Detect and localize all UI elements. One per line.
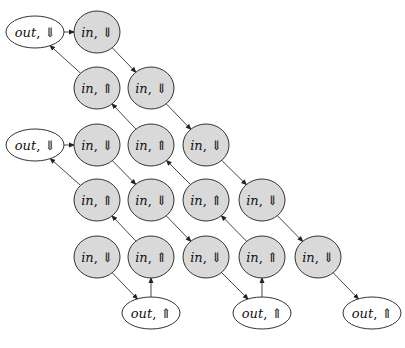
node-label: in, ⇑ — [135, 138, 167, 153]
double-arrow-up-icon: ⇑ — [102, 193, 113, 208]
node-out-up: out, ⇑ — [233, 297, 291, 329]
comma-text: , — [94, 138, 102, 153]
node-out-down: out, ⇓ — [6, 16, 64, 48]
node-kind-text: in — [81, 193, 94, 208]
node-in-up: in, ⇑ — [74, 67, 120, 109]
edge-arrow-n14-to-n9 — [112, 216, 136, 241]
edge-arrow-n13-to-n18 — [112, 273, 137, 299]
double-arrow-up-icon: ⇑ — [267, 250, 278, 265]
double-arrow-up-icon: ⇑ — [160, 306, 171, 321]
comma-text: , — [152, 306, 160, 321]
double-arrow-up-icon: ⇑ — [211, 193, 222, 208]
node-in-down: in, ⇓ — [74, 11, 120, 53]
node-label: in, ⇓ — [190, 250, 222, 265]
node-kind-text: in — [135, 193, 148, 208]
double-arrow-down-icon: ⇓ — [156, 193, 167, 208]
state-diagram: out, ⇓in, ⇓in, ⇑in, ⇓out, ⇓in, ⇓in, ⇑in,… — [0, 0, 405, 348]
comma-text: , — [259, 250, 267, 265]
node-label: in, ⇓ — [81, 138, 113, 153]
edge-arrow-n12-to-n17 — [277, 216, 302, 242]
node-out-up: out, ⇑ — [343, 297, 401, 329]
node-in-up: in, ⇑ — [128, 236, 174, 278]
comma-text: , — [94, 25, 102, 40]
comma-text: , — [203, 250, 211, 265]
node-kind-text: out — [15, 25, 37, 40]
edge-arrow-n9-to-n5 — [50, 159, 80, 186]
node-label: out, ⇓ — [15, 138, 56, 153]
double-arrow-up-icon: ⇑ — [271, 306, 282, 321]
node-kind-text: in — [246, 250, 259, 265]
edge-arrow-n10-to-n15 — [166, 216, 191, 241]
comma-text: , — [315, 250, 323, 265]
comma-text: , — [203, 193, 211, 208]
node-in-down: in, ⇓ — [128, 67, 174, 109]
node-in-down: in, ⇓ — [183, 236, 229, 278]
node-label: out, ⇓ — [15, 25, 56, 40]
double-arrow-down-icon: ⇓ — [44, 25, 55, 40]
double-arrow-down-icon: ⇓ — [323, 250, 334, 265]
node-in-down: in, ⇓ — [74, 236, 120, 278]
node-kind-text: in — [81, 250, 94, 265]
double-arrow-up-icon: ⇑ — [381, 306, 392, 321]
node-label: in, ⇓ — [302, 250, 334, 265]
node-label: out, ⇑ — [352, 306, 393, 321]
double-arrow-down-icon: ⇓ — [102, 138, 113, 153]
edge-arrow-n2-to-n4 — [112, 48, 136, 72]
comma-text: , — [263, 306, 271, 321]
node-out-down: out, ⇓ — [6, 129, 64, 161]
node-kind-text: in — [135, 250, 148, 265]
edge-arrow-n6-to-n10 — [112, 161, 135, 185]
node-label: out, ⇑ — [242, 306, 283, 321]
double-arrow-down-icon: ⇓ — [102, 250, 113, 265]
node-kind-text: in — [246, 193, 259, 208]
node-kind-text: in — [135, 81, 148, 96]
node-in-down: in, ⇓ — [183, 124, 229, 166]
double-arrow-up-icon: ⇑ — [102, 81, 113, 96]
node-label: in, ⇓ — [190, 138, 222, 153]
double-arrow-down-icon: ⇓ — [211, 250, 222, 265]
node-label: in, ⇑ — [190, 193, 222, 208]
node-kind-text: out — [15, 138, 37, 153]
node-label: in, ⇓ — [135, 193, 167, 208]
node-kind-text: in — [81, 138, 94, 153]
comma-text: , — [148, 193, 156, 208]
node-kind-text: in — [302, 250, 315, 265]
node-kind-text: in — [81, 25, 94, 40]
comma-text: , — [148, 138, 156, 153]
double-arrow-down-icon: ⇓ — [44, 138, 55, 153]
comma-text: , — [94, 250, 102, 265]
node-in-up: in, ⇑ — [239, 236, 285, 278]
node-out-up: out, ⇑ — [122, 297, 180, 329]
node-kind-text: out — [352, 306, 374, 321]
edge-arrow-n16-to-n11 — [221, 216, 246, 242]
node-in-down: in, ⇓ — [74, 124, 120, 166]
node-in-down: in, ⇓ — [128, 179, 174, 221]
double-arrow-down-icon: ⇓ — [211, 138, 222, 153]
node-in-up: in, ⇑ — [128, 124, 174, 166]
edge-arrow-n11-to-n7 — [167, 161, 191, 185]
node-in-up: in, ⇑ — [183, 179, 229, 221]
node-in-down: in, ⇓ — [295, 236, 341, 278]
edge-arrow-n17-to-n20 — [333, 273, 358, 299]
node-label: in, ⇓ — [246, 193, 278, 208]
comma-text: , — [94, 81, 102, 96]
node-kind-text: in — [190, 193, 203, 208]
node-label: in, ⇓ — [135, 81, 167, 96]
edge-arrow-n3-to-n1 — [50, 46, 81, 74]
node-label: in, ⇑ — [81, 193, 113, 208]
node-kind-text: in — [135, 138, 148, 153]
comma-text: , — [148, 81, 156, 96]
node-label: in, ⇑ — [135, 250, 167, 265]
node-label: in, ⇓ — [81, 25, 113, 40]
comma-text: , — [94, 193, 102, 208]
comma-text: , — [36, 25, 44, 40]
double-arrow-up-icon: ⇑ — [156, 138, 167, 153]
double-arrow-down-icon: ⇓ — [156, 81, 167, 96]
double-arrow-up-icon: ⇑ — [156, 250, 167, 265]
edge-arrow-n15-to-n19 — [222, 273, 248, 299]
comma-text: , — [373, 306, 381, 321]
node-kind-text: out — [131, 306, 153, 321]
comma-text: , — [148, 250, 156, 265]
node-kind-text: in — [190, 138, 203, 153]
edge-arrow-n7-to-n3 — [112, 104, 136, 129]
